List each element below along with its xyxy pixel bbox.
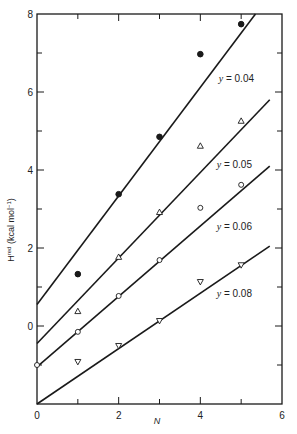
y-axis-title-sup: red: [6, 247, 12, 256]
open-circle-marker: [239, 182, 244, 187]
x-tick-label: 0: [34, 410, 40, 421]
triangle-up-marker: [75, 308, 81, 313]
open-circle-marker: [157, 258, 162, 263]
y-tick-label: 0: [27, 321, 33, 332]
triangle-down-marker: [197, 280, 203, 285]
series-label-value: = 0.05: [221, 159, 252, 170]
open-circle-marker: [35, 363, 40, 368]
y-tick-label: 6: [27, 87, 33, 98]
chart: 024602468 y = 0.04y = 0.05y = 0.06y = 0.…: [0, 0, 297, 434]
series-labels: y = 0.04y = 0.05y = 0.06y = 0.08: [216, 73, 255, 299]
series-label-value: = 0.04: [223, 73, 254, 84]
svg-text:Hred (kcal mol−1): Hred (kcal mol−1): [6, 198, 16, 262]
y-tick-label: 2: [27, 243, 33, 254]
series-label-4: y = 0.08: [216, 288, 253, 299]
series-label-value: = 0.08: [221, 288, 252, 299]
data-points: [35, 21, 245, 367]
series-label-2: y = 0.05: [216, 159, 253, 170]
fit-line-3: [37, 166, 270, 367]
filled-circle-marker: [198, 51, 204, 57]
open-circle-marker: [75, 329, 80, 334]
series-label-value: = 0.06: [221, 221, 252, 232]
triangle-up-marker: [197, 143, 203, 148]
x-tick-label: 6: [279, 410, 285, 421]
series-label-1: y = 0.04: [218, 73, 255, 84]
x-tick-label: 2: [116, 410, 122, 421]
open-circle-marker: [198, 205, 203, 210]
y-axis-title-unit: (kcal mol: [6, 208, 16, 247]
filled-circle-marker: [238, 21, 244, 27]
fit-line-4: [37, 246, 270, 404]
filled-circle-marker: [75, 271, 81, 277]
triangle-up-marker: [238, 118, 244, 123]
y-tick-label: 8: [27, 9, 33, 20]
axis-tick-labels: 024602468: [27, 9, 285, 421]
filled-circle-marker: [116, 191, 122, 197]
y-axis-title-close: ): [6, 198, 16, 201]
triangle-up-marker: [157, 209, 163, 214]
series-label-3: y = 0.06: [216, 221, 253, 232]
x-axis-title: N: [154, 416, 161, 426]
open-circle-marker: [116, 293, 121, 298]
triangle-down-marker: [75, 359, 81, 364]
filled-circle-marker: [157, 134, 163, 140]
x-tick-label: 4: [198, 410, 204, 421]
y-axis-title: Hred (kcal mol−1): [6, 198, 16, 262]
y-tick-label: 4: [27, 165, 33, 176]
